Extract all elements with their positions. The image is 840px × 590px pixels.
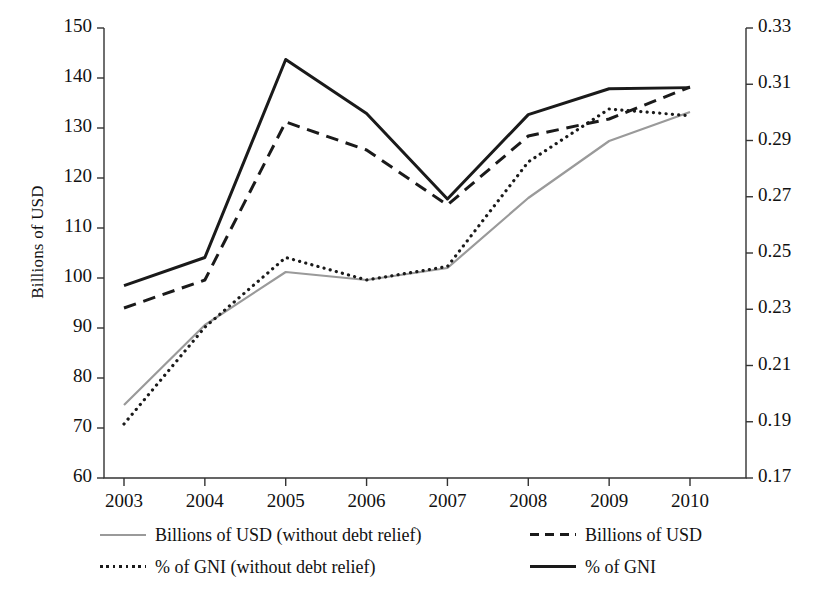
y-tick-label-right: 0.27 bbox=[758, 184, 828, 206]
y-tick-label-right: 0.21 bbox=[758, 353, 828, 375]
legend-swatch-solid-icon bbox=[530, 560, 576, 574]
y-tick-label-left: 70 bbox=[20, 415, 92, 437]
legend-label: Billions of USD bbox=[585, 525, 702, 546]
y-tick-label-left: 120 bbox=[20, 165, 92, 187]
x-tick-label: 2008 bbox=[486, 490, 570, 512]
y-tick-label-left: 100 bbox=[20, 265, 92, 287]
y-tick-label-left: 130 bbox=[20, 115, 92, 137]
legend-item: Billions of USD (without debt relief) bbox=[100, 522, 421, 548]
legend-item: % of GNI bbox=[530, 554, 656, 580]
x-tick-label: 2005 bbox=[244, 490, 328, 512]
y-tick-label-left: 90 bbox=[20, 315, 92, 337]
y-tick-label-left: 110 bbox=[20, 215, 92, 237]
axis-spines bbox=[104, 28, 746, 478]
y-tick-label-right: 0.29 bbox=[758, 128, 828, 150]
chart-legend: Billions of USD (without debt relief)Bil… bbox=[100, 522, 790, 586]
x-tick-label: 2010 bbox=[648, 490, 732, 512]
x-tick-label: 2004 bbox=[163, 490, 247, 512]
legend-swatch-dotted-icon bbox=[100, 560, 146, 574]
y-tick-label-left: 140 bbox=[20, 65, 92, 87]
y-tick-label-left: 150 bbox=[20, 15, 92, 37]
x-tick-label: 2009 bbox=[567, 490, 651, 512]
y-tick-label-right: 0.23 bbox=[758, 296, 828, 318]
x-tick-label: 2006 bbox=[325, 490, 409, 512]
legend-item: Billions of USD bbox=[530, 522, 702, 548]
y-tick-label-right: 0.31 bbox=[758, 71, 828, 93]
y-tick-label-right: 0.25 bbox=[758, 240, 828, 262]
y-tick-label-right: 0.17 bbox=[758, 465, 828, 487]
legend-item: % of GNI (without debt relief) bbox=[100, 554, 375, 580]
chart-root: Billions of USD ODA as per cent of GNI 6… bbox=[0, 0, 840, 590]
legend-label: % of GNI (without debt relief) bbox=[155, 557, 375, 578]
x-tick-label: 2007 bbox=[405, 490, 489, 512]
legend-label: Billions of USD (without debt relief) bbox=[155, 525, 421, 546]
legend-swatch-dashed-icon bbox=[530, 528, 576, 542]
series-line-3 bbox=[124, 60, 690, 286]
y-tick-label-left: 60 bbox=[20, 465, 92, 487]
x-tick-label: 2003 bbox=[82, 490, 166, 512]
legend-swatch-solid-icon bbox=[100, 528, 146, 542]
y-tick-label-right: 0.19 bbox=[758, 409, 828, 431]
y-tick-label-left: 80 bbox=[20, 365, 92, 387]
y-tick-label-right: 0.33 bbox=[758, 15, 828, 37]
legend-label: % of GNI bbox=[585, 557, 656, 578]
